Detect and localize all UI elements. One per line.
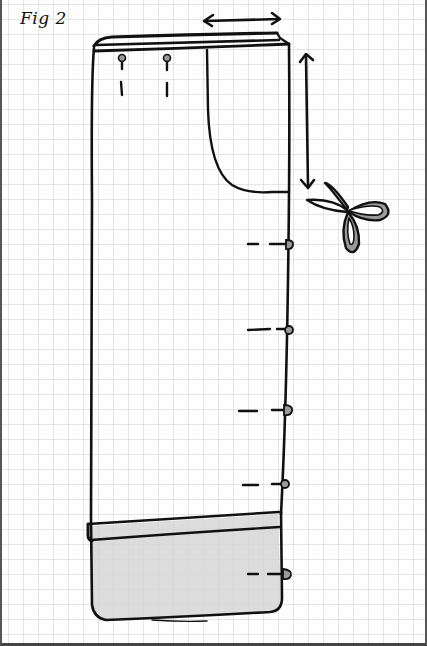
scissors-icon [307,183,389,252]
waist-width-arrow [204,13,280,26]
graph-paper: Fig 2 [0,0,427,646]
pin-4 [243,480,289,488]
waist-pins [119,55,171,97]
waistband [94,33,289,51]
trouser-diagram [2,0,427,646]
pin-2 [248,326,293,334]
pocket-curve [207,50,289,192]
pin-3 [239,405,292,415]
pin-1 [248,240,293,249]
pocket-depth-arrow [300,54,314,188]
